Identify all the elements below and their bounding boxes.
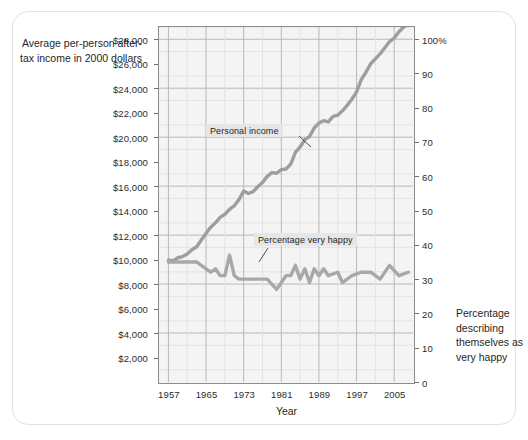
plot-area <box>158 26 415 384</box>
y-tick-right-80: 80 <box>422 103 433 114</box>
y-tick-mark-right <box>415 279 419 280</box>
y-tick-left-12000: $12,000 <box>78 230 148 241</box>
y-tick-mark-right <box>415 39 419 40</box>
y-tick-left-8000: $8,000 <box>78 279 148 290</box>
y-tick-right-60: 60 <box>422 171 433 182</box>
y-tick-left-24000: $24,000 <box>78 83 148 94</box>
y-tick-left-16000: $16,000 <box>78 181 148 192</box>
y-tick-left-22000: $22,000 <box>78 108 148 119</box>
y-tick-mark-right <box>415 142 419 143</box>
y-axis-right-title: Percentage describing themselves as very… <box>456 306 528 364</box>
chart-figure: Average per-person after-tax income in 2… <box>0 0 528 440</box>
y-tick-mark-right <box>415 245 419 246</box>
y-tick-left-2000: $2,000 <box>78 353 148 364</box>
x-tick-1965: 1965 <box>196 389 218 400</box>
x-tick-1957: 1957 <box>158 389 180 400</box>
x-tick-1973: 1973 <box>233 389 255 400</box>
annotation-personal-income: Personal income <box>206 124 283 137</box>
y-tick-right-30: 30 <box>422 274 433 285</box>
y-tick-mark-right <box>415 108 419 109</box>
y-tick-left-14000: $14,000 <box>78 206 148 217</box>
y-tick-right-90: 90 <box>422 68 433 79</box>
y-tick-right-10: 10 <box>422 343 433 354</box>
y-tick-right-0: 0 <box>422 377 427 388</box>
y-tick-mark-right <box>415 211 419 212</box>
y-tick-right-40: 40 <box>422 240 433 251</box>
y-tick-right-100pct: 100% <box>422 34 447 45</box>
y-tick-left-4000: $4,000 <box>78 328 148 339</box>
plot-series <box>159 27 413 382</box>
x-tick-1981: 1981 <box>271 389 293 400</box>
y-tick-left-20000: $20,000 <box>78 132 148 143</box>
y-tick-mark-right <box>415 348 419 349</box>
annotation-percentage-very-happy: Percentage very happy <box>254 233 357 246</box>
y-tick-right-50: 50 <box>422 206 433 217</box>
y-tick-left-6000: $6,000 <box>78 304 148 315</box>
x-tick-2005: 2005 <box>384 389 406 400</box>
y-tick-mark-right <box>415 176 419 177</box>
x-axis-title: Year <box>158 404 415 419</box>
y-tick-left-28000: $28,000 <box>78 34 148 45</box>
x-tick-1989: 1989 <box>309 389 331 400</box>
y-tick-right-20: 20 <box>422 308 433 319</box>
y-tick-left-10000: $10,000 <box>78 255 148 266</box>
y-tick-mark-right <box>415 382 419 383</box>
y-tick-right-70: 70 <box>422 137 433 148</box>
y-tick-left-26000: $26,000 <box>78 59 148 70</box>
y-tick-mark-right <box>415 313 419 314</box>
y-tick-mark-right <box>415 73 419 74</box>
y-tick-left-18000: $18,000 <box>78 157 148 168</box>
x-tick-1997: 1997 <box>346 389 368 400</box>
